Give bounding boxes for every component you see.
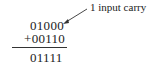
carry-annotation: 1 input carry xyxy=(90,1,146,13)
